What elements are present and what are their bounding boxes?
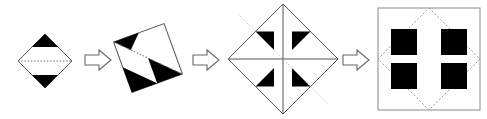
black-triangle-top [32,34,58,47]
arrow-right-glyph [343,50,369,70]
step-2-svg [105,0,200,119]
square-outline [378,8,480,110]
paper-folding-diagram [0,0,487,119]
black-square-top-right [441,29,467,55]
step-3-svg [228,0,343,119]
step-4-square-with-four-black-squares [374,0,487,119]
arrow-right-icon [192,48,220,72]
diamond-outline [105,8,198,109]
black-square-bottom-right [441,63,467,89]
step-3-diamond-cross-four-triangles [228,0,343,119]
arrow-step3-to-step4 [342,48,370,72]
step-2-rotated-diamond-three-triangles [105,0,200,119]
black-square-top-left [391,29,417,55]
rotated-group [105,8,198,109]
arrow-right-glyph [193,50,219,70]
black-triangle-bottom [32,75,58,88]
arrow-step2-to-step3 [192,48,220,72]
step-4-svg [374,0,487,119]
arrow-right-icon [342,48,370,72]
black-square-bottom-left [391,63,417,89]
